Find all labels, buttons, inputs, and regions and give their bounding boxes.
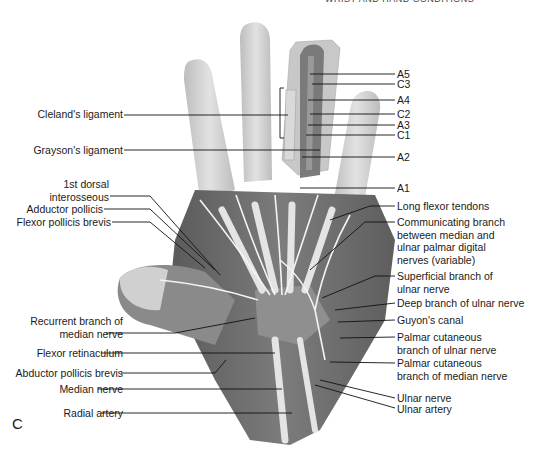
label-median-nerve: Median nerve <box>59 383 123 396</box>
label-radial-artery: Radial artery <box>63 407 123 420</box>
label-c1-pulley: C1 <box>397 129 410 142</box>
label-flexor-pollicis-brevis: Flexor pollicis brevis <box>16 216 111 229</box>
label-a4-pulley: A4 <box>397 94 410 107</box>
index-finger <box>184 59 235 200</box>
label-adductor-pollicis: Adductor pollicis <box>27 203 103 216</box>
label-palmar-cutaneous-median: Palmar cutaneous branch of median nerve <box>397 357 507 382</box>
palm <box>118 190 395 445</box>
label-a1-pulley: A1 <box>397 182 410 195</box>
label-1st-dorsal-interosseous: 1st dorsal interosseous <box>49 178 109 203</box>
label-flexor-retinaculum: Flexor retinaculum <box>37 347 123 360</box>
panel-label: C <box>12 415 23 432</box>
label-recurrent-branch-median-nerve: Recurrent branch of median nerve <box>30 315 123 340</box>
label-superficial-branch-ulnar-nerve: Superficial branch of ulnar nerve <box>397 270 493 295</box>
label-clelands-ligament: Cleland's ligament <box>38 108 123 121</box>
label-guyons-canal: Guyon's canal <box>397 314 463 327</box>
middle-finger <box>240 22 272 182</box>
label-graysons-ligament: Grayson's ligament <box>33 144 123 157</box>
label-c3-pulley: C3 <box>397 78 410 91</box>
label-long-flexor-tendons: Long flexor tendons <box>397 200 489 213</box>
label-palmar-cutaneous-ulnar: Palmar cutaneous branch of ulnar nerve <box>397 331 496 356</box>
label-a2-pulley: A2 <box>397 151 410 164</box>
label-abductor-pollicis-brevis: Abductor pollicis brevis <box>16 367 123 380</box>
label-communicating-branch: Communicating branch between median and … <box>397 216 505 266</box>
label-deep-branch-ulnar-nerve: Deep branch of ulnar nerve <box>397 297 524 310</box>
label-ulnar-artery: Ulnar artery <box>397 403 452 416</box>
